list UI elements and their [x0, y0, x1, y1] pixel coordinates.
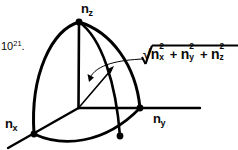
octant-sphere-drawing	[0, 0, 238, 150]
axis-line-nz	[79, 22, 80, 108]
axis-label-nz-subscript: z	[88, 8, 93, 18]
term-ny-exponent: 2	[189, 42, 194, 51]
operator-plus-1: +	[170, 47, 178, 62]
axis-label-ny: ny	[153, 112, 165, 128]
operator-plus-2: +	[200, 47, 208, 62]
page-text-fragment-base: 10	[1, 40, 13, 52]
term-nx-base: n	[151, 46, 160, 62]
front-arc-dot	[117, 133, 124, 140]
term-ny-subscript: y	[189, 53, 194, 62]
radius-vector-line	[79, 70, 112, 108]
axis-label-nx: nx	[5, 117, 17, 133]
axis-label-nz: nz	[81, 2, 93, 18]
radical-sign: √	[143, 46, 151, 62]
leader-arrowhead	[88, 74, 95, 82]
page-text-fragment-trailing: .	[22, 40, 25, 52]
figure-container: nz ny nx 1021. √nx2+ny2+nz2	[0, 0, 238, 150]
arc-front-meridian	[79, 22, 120, 136]
radius-magnitude-annotation: √nx2+ny2+nz2	[143, 47, 220, 61]
radius-vector	[79, 66, 115, 108]
term-nz-exponent: 2	[220, 42, 225, 51]
page-text-fragment: 1021.	[1, 40, 25, 52]
arc-yz-outer-meridian	[79, 22, 140, 108]
axis-label-nx-subscript: x	[12, 123, 17, 133]
term-ny: ny2	[181, 47, 190, 61]
leader-curve	[90, 59, 143, 78]
arc-xz-meridian	[34, 22, 79, 134]
nx-axis-dot	[31, 131, 38, 138]
term-nx: nx2	[151, 47, 160, 61]
apex-dot	[76, 19, 83, 26]
term-nx-exponent: 2	[159, 42, 164, 51]
term-nz-base: n	[211, 46, 220, 62]
ny-axis-dot	[137, 105, 144, 112]
term-nz: nz2	[211, 47, 220, 61]
term-nx-subscript: x	[159, 53, 164, 62]
page-text-fragment-exponent: 21	[13, 39, 21, 48]
axis-label-ny-subscript: y	[160, 118, 165, 128]
term-nz-subscript: z	[220, 53, 224, 62]
term-ny-base: n	[181, 46, 190, 62]
